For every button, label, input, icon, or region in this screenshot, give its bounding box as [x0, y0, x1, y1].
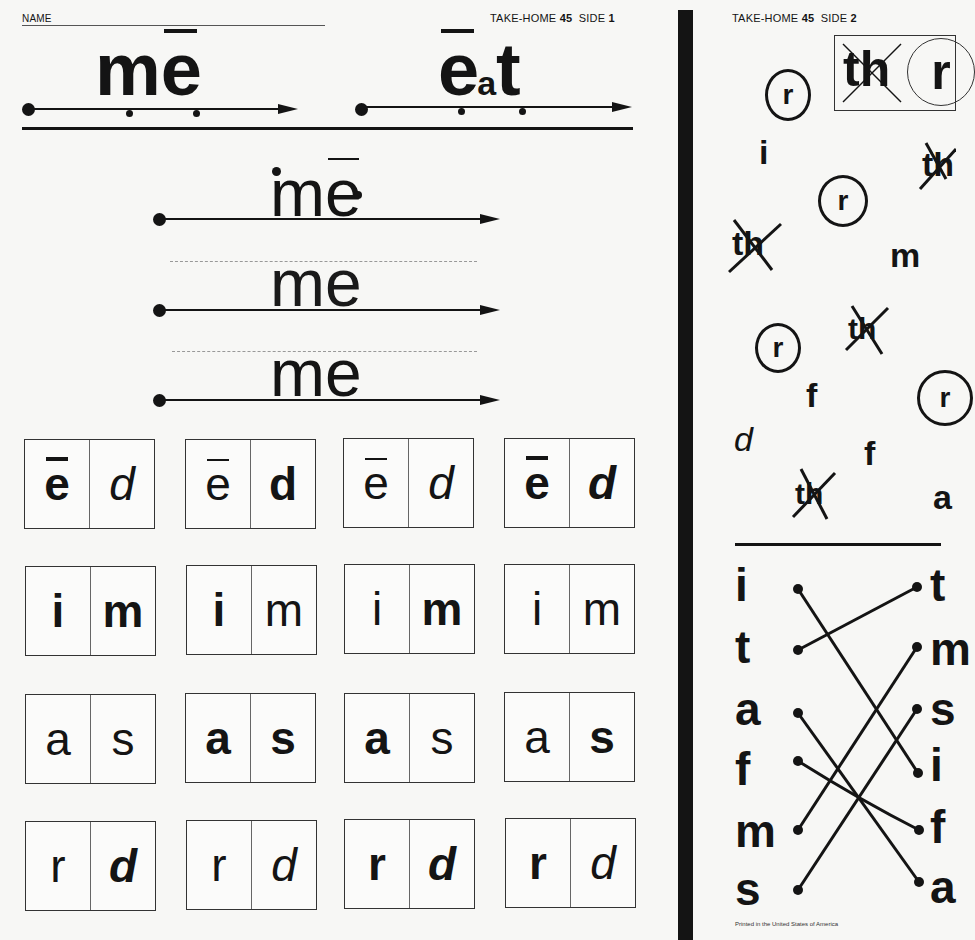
arrow-line: [30, 108, 280, 110]
card-left-letter: a: [505, 693, 569, 781]
letter-card[interactable]: e d: [504, 438, 635, 528]
card-left-letter: r: [506, 819, 570, 907]
letter-d[interactable]: d: [734, 422, 753, 456]
letter-card[interactable]: a s: [344, 693, 475, 783]
key-box: th r: [834, 35, 956, 111]
sound-dot-icon: [519, 108, 526, 115]
card-right-letter: s: [250, 694, 315, 782]
side1-header: TAKE-HOME 45 SIDE 1: [490, 12, 615, 24]
header-prefix: TAKE-HOME: [732, 12, 798, 24]
header-side-number: 1: [609, 12, 615, 24]
card-right-letter: d: [90, 822, 155, 910]
crossed-letters-th[interactable]: th: [732, 226, 764, 260]
card-right-letter: m: [409, 565, 474, 653]
circled-letter-r[interactable]: r: [917, 370, 973, 426]
circled-letter-r[interactable]: r: [755, 323, 801, 373]
letter-card[interactable]: a s: [25, 694, 156, 784]
letter-e-long: e: [205, 461, 231, 507]
arrow-line: [160, 399, 482, 401]
letter-m[interactable]: m: [890, 238, 920, 272]
arrowhead-icon: [480, 305, 500, 315]
letter-r: r: [773, 332, 784, 364]
letter-card[interactable]: r d: [344, 819, 475, 909]
arrowhead-icon: [612, 102, 632, 112]
header-number: 45: [802, 12, 815, 24]
letter-r: r: [838, 185, 849, 217]
letter-card[interactable]: r d: [186, 820, 317, 910]
card-right-letter: d: [569, 439, 634, 527]
trace-word: me: [270, 160, 362, 226]
card-left-letter: r: [26, 822, 90, 910]
circled-letter-r[interactable]: r: [818, 175, 868, 227]
start-dot-icon: [355, 103, 368, 116]
letter-f[interactable]: f: [806, 378, 817, 412]
model-letter-m: m: [95, 28, 159, 111]
model-word-me: me: [95, 33, 200, 107]
card-left-letter: a: [186, 694, 250, 782]
model-letter-e-long: e: [438, 33, 477, 107]
crossed-letters-th[interactable]: th: [795, 475, 823, 509]
letter-card[interactable]: a s: [185, 693, 316, 783]
sound-dot-icon: [126, 110, 133, 117]
circled-letter-r[interactable]: r: [765, 69, 811, 121]
card-left-letter: i: [187, 566, 251, 654]
start-dot-icon: [354, 191, 362, 199]
card-left-letter: i: [505, 565, 569, 653]
letter-card[interactable]: e d: [185, 439, 316, 529]
model-word-eat: eat: [438, 33, 519, 107]
letter-card[interactable]: a s: [504, 692, 635, 782]
arrow-line: [160, 309, 482, 311]
letter-a[interactable]: a: [933, 480, 952, 514]
letter-f[interactable]: f: [864, 436, 875, 470]
letter-card[interactable]: i m: [25, 566, 156, 656]
header-side-label: SIDE: [579, 12, 605, 24]
letter-card[interactable]: i m: [344, 564, 475, 654]
side2-header: TAKE-HOME 45 SIDE 2: [732, 12, 857, 24]
start-dot-icon: [272, 167, 281, 176]
sound-dot-icon: [458, 108, 465, 115]
card-right-letter: d: [250, 440, 315, 528]
crossed-letters-th[interactable]: th: [922, 147, 954, 181]
card-left-letter: e: [186, 440, 250, 528]
card-left-letter: e: [25, 440, 89, 528]
letter-r: r: [940, 382, 951, 414]
section-divider: [22, 127, 633, 130]
trace-word: me: [270, 250, 362, 316]
matching-lines[interactable]: [680, 540, 941, 920]
card-left-letter: a: [345, 694, 409, 782]
arrow-line: [160, 218, 482, 220]
letter-r: r: [783, 79, 794, 111]
card-left-letter: a: [26, 695, 90, 783]
crossed-letters-th[interactable]: th: [848, 310, 876, 344]
sound-dot-icon: [193, 110, 200, 117]
letter-card[interactable]: i m: [186, 565, 317, 655]
card-left-letter: i: [26, 567, 90, 655]
printed-footer: Printed in the United States of America: [735, 921, 838, 927]
letter-e-long: e: [524, 460, 550, 506]
arrowhead-icon: [480, 214, 500, 224]
letter-card[interactable]: e d: [343, 438, 474, 528]
arrowhead-icon: [480, 395, 500, 405]
header-prefix: TAKE-HOME: [490, 12, 556, 24]
name-line[interactable]: [22, 25, 325, 26]
header-side-label: SIDE: [821, 12, 847, 24]
model-letter-a-silent: a: [477, 64, 496, 102]
letter-card[interactable]: i m: [504, 564, 635, 654]
card-right-letter: s: [569, 693, 634, 781]
model-letter-e-long: e: [161, 33, 200, 107]
letter-i[interactable]: i: [759, 135, 768, 169]
card-right-letter: d: [409, 820, 474, 908]
name-label: NAME: [22, 13, 52, 24]
card-left-letter: r: [345, 820, 409, 908]
key-circled-r: r: [907, 38, 975, 106]
letter-e-long: e: [44, 461, 70, 507]
card-left-letter: e: [505, 439, 569, 527]
arrowhead-icon: [278, 104, 298, 114]
card-right-letter: s: [409, 694, 474, 782]
cross-out-icon: [842, 302, 892, 358]
letter-card[interactable]: r d: [505, 818, 636, 908]
letter-card[interactable]: e d: [24, 439, 155, 529]
cross-out-icon: [839, 40, 905, 106]
card-right-letter: d: [89, 440, 154, 528]
letter-card[interactable]: r d: [25, 821, 156, 911]
